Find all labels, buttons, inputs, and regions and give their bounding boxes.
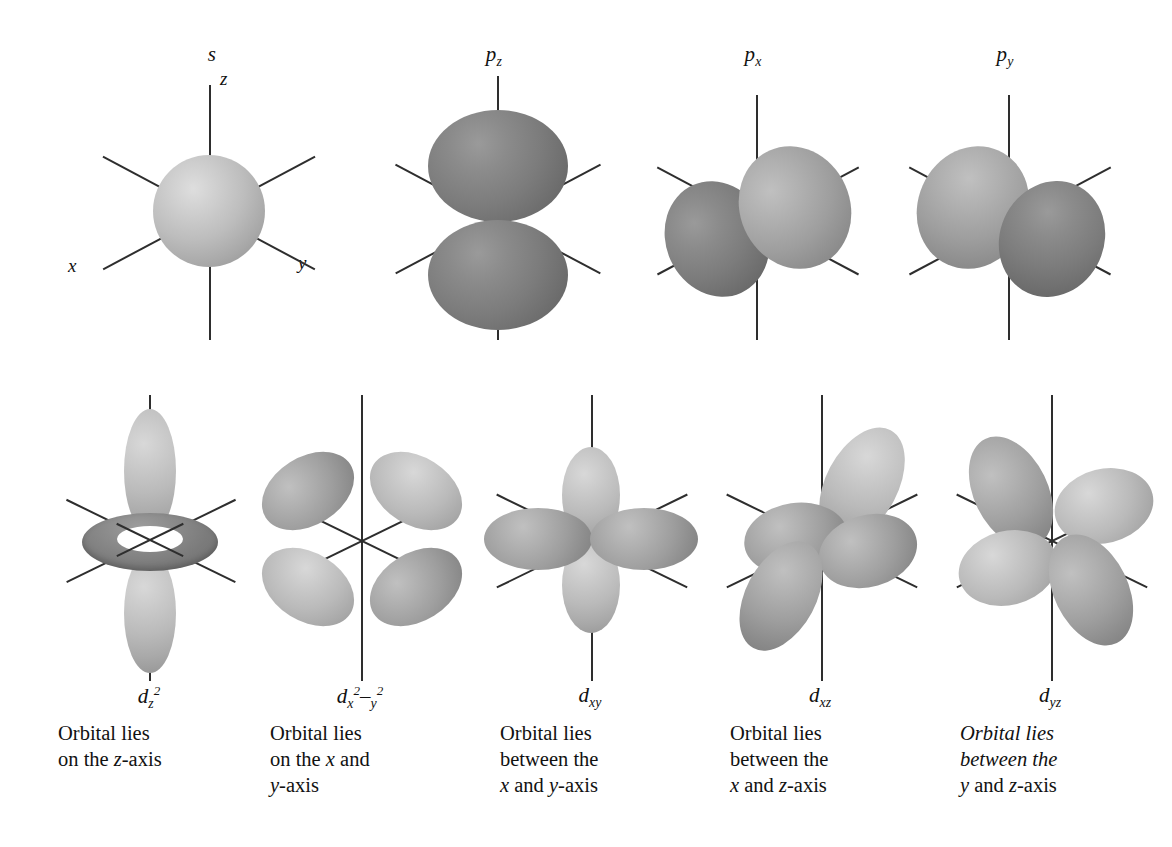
orbital-label-dx2y2: dx2–y2 [337,683,383,712]
caption-line: Orbital lies [730,720,915,746]
orbital-lobe-bottom [428,220,568,330]
caption-line: Orbital lies [270,720,455,746]
axis-z [361,395,363,681]
orbital-render-dyz [930,395,1170,685]
orbital-caption-dyz: Orbital lies between the y and z-axis [960,720,1145,798]
caption-line: between the [960,746,1145,772]
orbital-lobe-bottom [124,553,176,673]
orbital-render-s [60,40,360,340]
orbital-cell-px: px [630,40,910,340]
caption-line: y and z-axis [960,772,1145,798]
orbital-render-pz [370,40,660,340]
orbital-cell-pz: pz [370,40,660,340]
orbital-lobe-left [484,508,592,570]
orbital-label-dxy: dxy [579,683,602,711]
orbital-label-dz2: dz2 [138,683,160,712]
orbital-cell-dz2: dz2 Orbital lies on the z-axis [25,395,255,685]
orbital-cell-py: py [880,40,1160,340]
caption-line: Orbital lies [58,720,243,746]
caption-line: on the z-axis [58,746,243,772]
orbital-sphere-s [153,155,265,267]
orbital-lobe-lower-right [356,532,477,643]
caption-line: Orbital lies [960,720,1145,746]
orbital-lobe-upper-left [248,436,369,547]
orbital-render-dx2y2 [240,395,480,685]
orbital-label-dxz: dxz [809,683,831,711]
caption-line: x and z-axis [730,772,915,798]
orbital-label-dyz: dyz [1039,683,1061,711]
orbital-caption-dxy: Orbital lies between the x and y-axis [500,720,685,798]
orbital-render-dz2 [25,395,255,685]
orbital-diagram: s z x y pz [0,0,1172,847]
orbital-render-dxy [470,395,710,685]
orbital-cell-s: s z x y [60,40,360,340]
orbital-render-px [630,40,910,340]
orbital-caption-dxz: Orbital lies between the x and z-axis [730,720,915,798]
orbital-caption-dz2: Orbital lies on the z-axis [58,720,243,772]
orbital-cell-dxz: dxz Orbital lies between the x and z-axi… [700,395,940,685]
orbital-caption-dx2y2: Orbital lies on the x and y-axis [270,720,455,798]
orbital-lobe-top [428,110,568,222]
caption-line: between the [500,746,685,772]
orbital-cell-dx2y2: dx2–y2 Orbital lies on the x and y-axis [240,395,480,685]
orbital-cell-dxy: dxy Orbital lies between the x and y-axi… [470,395,710,685]
caption-line: y-axis [270,772,455,798]
orbital-lobe-right [590,508,698,570]
orbital-render-dxz [700,395,940,685]
orbital-cell-dyz: dyz Orbital lies between the y and z-axi… [930,395,1170,685]
caption-line: x and y-axis [500,772,685,798]
orbital-lobe-lower-left [248,532,369,643]
axis-z [1051,395,1053,681]
caption-line: between the [730,746,915,772]
orbital-render-py [880,40,1160,340]
caption-line: Orbital lies [500,720,685,746]
caption-line: on the x and [270,746,455,772]
orbital-lobe-upper-right [356,436,477,547]
